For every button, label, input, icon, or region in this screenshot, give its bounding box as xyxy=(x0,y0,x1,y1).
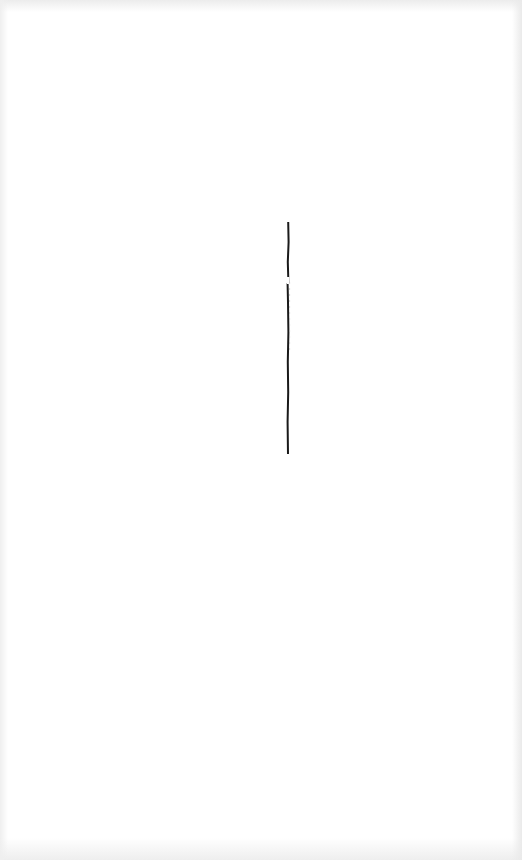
scanned-page xyxy=(0,0,522,860)
scan-edge-top xyxy=(0,0,522,12)
scan-edge-bottom xyxy=(0,838,522,860)
scan-edge-left xyxy=(0,0,8,860)
vertical-ink-stroke xyxy=(285,222,291,454)
scan-edge-right xyxy=(512,0,522,860)
